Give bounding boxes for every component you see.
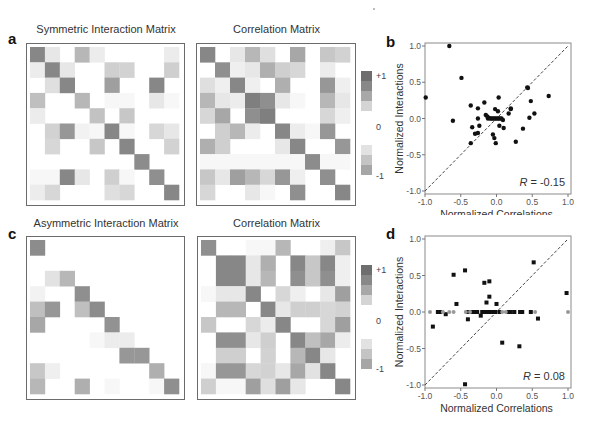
heatmap-cell — [105, 78, 120, 94]
heatmap-cell — [335, 286, 350, 302]
heatmap-cell — [30, 47, 45, 63]
heatmap-cell — [216, 302, 231, 318]
data-point — [546, 94, 550, 98]
heatmap-cell — [260, 154, 275, 170]
svg-text:Normalized Interactions: Normalized Interactions — [393, 257, 405, 367]
heatmap-cell — [245, 47, 260, 63]
data-point — [468, 310, 472, 314]
heatmap-cell — [290, 47, 305, 63]
data-point — [501, 126, 505, 130]
heatmap-cell — [261, 271, 276, 287]
heatmap-cell — [119, 108, 134, 124]
heatmap-cell — [260, 108, 275, 124]
data-point — [496, 109, 500, 113]
svg-text:R = -0.15: R = -0.15 — [519, 176, 565, 188]
data-point — [452, 310, 456, 314]
heatmap-cell — [200, 78, 215, 94]
stray-dot — [373, 8, 375, 10]
heatmap-cell — [30, 286, 45, 302]
heatmap-cell — [105, 169, 120, 185]
data-point — [469, 103, 473, 107]
heatmap-cell — [320, 255, 335, 271]
heatmap-cell — [276, 363, 291, 379]
colorbar-c-top-label: +1 — [376, 265, 386, 275]
heatmap-cell — [290, 379, 305, 395]
heatmap-cell — [149, 363, 164, 379]
heatmap-cell — [335, 47, 350, 63]
heatmap-cell — [30, 185, 45, 201]
heatmap-cell — [246, 240, 261, 256]
heatmap-cell — [216, 332, 231, 348]
heatmap-cell — [245, 108, 260, 124]
heatmap-cell — [149, 78, 164, 94]
data-point — [495, 302, 499, 306]
heatmap-cell — [275, 62, 290, 78]
heatmap-cell — [119, 348, 134, 364]
heatmap-cell — [231, 363, 246, 379]
heatmap-cell — [320, 108, 335, 124]
heatmap-cell — [335, 185, 350, 201]
heatmap-cell — [164, 93, 179, 109]
data-point — [464, 310, 468, 314]
heatmap-cell — [246, 286, 261, 302]
heatmap-cell — [290, 332, 305, 348]
heatmap-cell — [200, 139, 215, 155]
heatmap-cell — [230, 154, 245, 170]
heatmap-cell — [216, 363, 231, 379]
heatmap-cell — [261, 240, 276, 256]
data-point — [452, 273, 456, 277]
correlation-heatmap-c — [197, 236, 356, 400]
heatmap-cell — [164, 47, 179, 63]
heatmap-cell — [335, 332, 350, 348]
heatmap-cell — [320, 62, 335, 78]
heatmap-cell — [45, 363, 60, 379]
heatmap-cell — [305, 271, 320, 287]
data-point — [447, 310, 451, 314]
data-point — [482, 310, 486, 314]
data-point — [451, 118, 455, 122]
heatmap-cell — [335, 154, 350, 170]
heatmap-cell — [261, 363, 276, 379]
heatmap-cell — [60, 78, 75, 94]
heatmap-cell — [320, 93, 335, 109]
heatmap-cell — [105, 185, 120, 201]
heatmap-cell — [290, 286, 305, 302]
heatmap-cell — [90, 108, 105, 124]
heatmap-cell — [45, 47, 60, 63]
heatmap-cell — [276, 379, 291, 395]
svg-text:1.0: 1.0 — [562, 197, 574, 207]
heatmap-cell — [261, 302, 276, 318]
heatmap-cell — [320, 271, 335, 287]
data-point — [533, 310, 537, 314]
heatmap-cell — [290, 62, 305, 78]
svg-text:0.0: 0.0 — [409, 114, 421, 124]
heatmap-cell — [275, 139, 290, 155]
heatmap-cell — [134, 154, 149, 170]
svg-text:0.0: 0.0 — [491, 391, 503, 401]
heatmap-cell — [215, 62, 230, 78]
svg-text:R = 0.08: R = 0.08 — [523, 370, 565, 382]
data-point — [497, 124, 501, 128]
heatmap-cell — [164, 139, 179, 155]
heatmap-cell — [290, 255, 305, 271]
heatmap-cell — [230, 93, 245, 109]
colorbar-a — [361, 71, 372, 185]
heatmap-cell — [30, 62, 45, 78]
heatmap-cell — [149, 124, 164, 140]
heatmap-cell — [45, 78, 60, 94]
heatmap-cell — [90, 139, 105, 155]
heatmap-cell — [201, 379, 216, 395]
data-point — [521, 126, 525, 130]
heatmap-cell — [201, 363, 216, 379]
data-point — [509, 106, 513, 110]
heatmap-cell — [30, 302, 45, 318]
correlation-heatmap-a — [196, 43, 356, 206]
heatmap-cell — [320, 169, 335, 185]
heatmap-cell — [320, 78, 335, 94]
heatmap-cell — [200, 185, 215, 201]
heatmap-cell — [260, 169, 275, 185]
symmetric-matrix-title: Symmetric Interaction Matrix — [28, 23, 184, 35]
data-point — [486, 116, 490, 120]
svg-text:0.0: 0.0 — [491, 197, 503, 207]
heatmap-cell — [290, 185, 305, 201]
